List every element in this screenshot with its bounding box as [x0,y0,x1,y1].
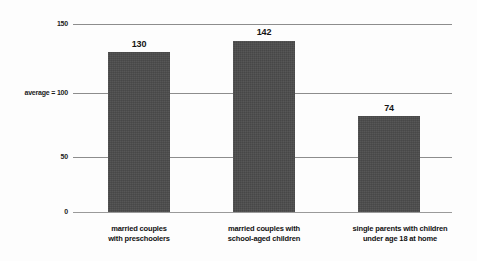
bar-value-text-2: 142 [254,27,274,37]
y-axis-tick-100: average = 100 [0,89,68,97]
y-axis-tick-0: 0 [0,208,68,216]
category-label-3-line1: single parents with children [330,224,470,234]
bar-married-couples-with-school-aged-children[interactable] [233,41,295,212]
category-label-3-line2: under age 18 at home [330,234,470,244]
bar-value-label-2: 142 [233,27,295,37]
y-axis-tick-label-0: 0 [64,208,68,216]
bar-chart: 150 average = 100 50 0 130 married coupl… [0,0,477,261]
bar-married-couples-with-preschoolers[interactable] [108,52,170,212]
y-axis-tick-label-50: 50 [61,153,68,161]
category-label-2: married couples with school-aged childre… [203,224,325,243]
y-axis-tick-label-150: 150 [57,20,68,28]
gridline-150 [73,24,452,25]
bar-value-text-3: 74 [381,103,397,113]
bar-value-text-1: 130 [129,39,149,49]
bar-single-parents-with-children-under-18[interactable] [358,116,420,212]
category-label-1: married couples with preschoolers [78,224,200,243]
y-axis-tick-50: 50 [0,153,68,161]
bar-value-label-3: 74 [358,103,420,113]
category-label-1-line1: married couples [78,224,200,234]
category-label-2-line1: married couples with [203,224,325,234]
y-axis-tick-label-100: average = 100 [24,89,68,97]
bar-value-label-1: 130 [108,39,170,49]
category-label-2-line2: school-aged children [203,234,325,244]
y-axis-tick-150: 150 [0,20,68,28]
gridline-0 [73,212,452,213]
category-label-3: single parents with children under age 1… [330,224,470,243]
plot-area: 150 average = 100 50 0 130 married coupl… [0,0,477,261]
category-label-1-line2: with preschoolers [78,234,200,244]
